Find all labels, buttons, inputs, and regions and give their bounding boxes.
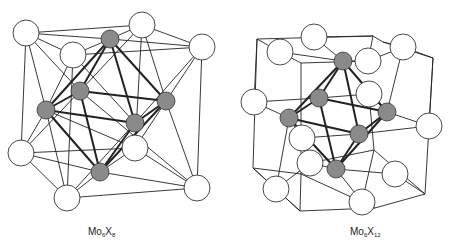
x-atom <box>267 39 293 65</box>
cluster-structures-diagram <box>0 0 450 243</box>
x-atom <box>390 34 416 60</box>
mo-atom <box>101 30 119 48</box>
x-atom <box>189 34 215 60</box>
x-atom <box>355 48 381 74</box>
x-atom <box>356 81 382 107</box>
mo-atom <box>71 82 89 100</box>
x-atom <box>54 185 80 211</box>
x-atom <box>13 20 39 46</box>
mo-atom <box>378 103 396 121</box>
x-atom <box>184 175 210 201</box>
x-atom <box>289 125 315 151</box>
x-atom <box>349 189 375 215</box>
x-atom <box>416 113 442 139</box>
mo6x8-structure <box>8 12 215 211</box>
x-atom <box>382 161 408 187</box>
x-atom <box>129 12 155 38</box>
mo-atom <box>334 52 352 70</box>
mo-atom <box>280 109 298 127</box>
x-atom <box>263 176 289 202</box>
mo-atom <box>157 92 175 110</box>
mo-atom <box>91 163 109 181</box>
mo-atom <box>350 125 368 143</box>
mo-atom <box>327 160 345 178</box>
mo-atom <box>126 114 144 132</box>
x-atom <box>301 24 327 50</box>
x-atom <box>60 42 86 68</box>
mo-atom <box>310 89 328 107</box>
x-atom <box>297 150 323 176</box>
mo6x12-caption: Mo6X12 <box>350 226 381 238</box>
x-atom <box>8 140 34 166</box>
x-atom <box>241 89 267 115</box>
mo6x12-structure <box>241 24 442 215</box>
mo6x8-caption: Mo6X8 <box>88 226 115 238</box>
x-atom <box>122 135 148 161</box>
mo-atom <box>37 101 55 119</box>
